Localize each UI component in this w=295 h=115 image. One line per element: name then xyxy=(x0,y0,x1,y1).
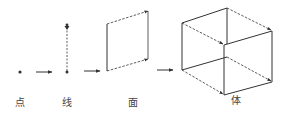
diagram-point-line-plane-solid: 点 线 面 体 xyxy=(0,0,295,115)
point-dot xyxy=(18,70,21,73)
label-plane: 面 xyxy=(128,98,138,108)
label-line: 线 xyxy=(62,98,72,108)
line-figure xyxy=(65,24,70,74)
plane-figure xyxy=(107,11,148,71)
label-point: 点 xyxy=(15,98,25,108)
solid-cube-figure xyxy=(182,8,272,95)
label-solid: 体 xyxy=(231,96,241,106)
diagram-canvas xyxy=(0,0,295,115)
